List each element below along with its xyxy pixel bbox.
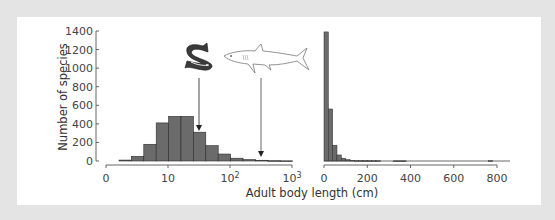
x-tick-label: 400 (400, 172, 421, 185)
y-axis-title: Number of species (56, 43, 70, 151)
y-tick-label: 0 (86, 155, 93, 168)
histogram-bar (193, 132, 205, 161)
x-tick-label: 0 (103, 172, 110, 185)
histogram-bar (243, 160, 255, 161)
x-tick-label: 600 (443, 172, 464, 185)
x-tick-label: 200 (357, 172, 378, 185)
histogram-bar (280, 161, 292, 162)
shark-arrow (258, 78, 264, 157)
histogram-bar (156, 123, 168, 161)
y-tick-label: 1400 (65, 25, 93, 38)
right-x-axis: 0200400600800 (321, 165, 508, 185)
left-y-axis: 1400120010008006004002000 (65, 25, 99, 168)
fish-icon (185, 43, 212, 70)
histogram-bar (119, 160, 131, 161)
left-x-axis: 010102103 (103, 165, 302, 185)
histogram-bar (255, 160, 267, 161)
histogram-bar (181, 116, 193, 161)
histogram-bar (268, 161, 280, 162)
histogram-bar (333, 145, 337, 161)
fish-arrow (196, 78, 202, 131)
y-tick-label: 600 (72, 99, 93, 112)
histogram-bar (206, 146, 218, 161)
x-tick-label: 10 (161, 172, 175, 185)
histogram-bar (324, 32, 328, 161)
left-histogram (119, 116, 293, 161)
histogram-bar (231, 158, 243, 161)
shark-icon (224, 44, 309, 73)
x-tick-label: 800 (487, 172, 508, 185)
y-tick-label: 200 (72, 136, 93, 149)
y-tick-label: 800 (72, 81, 93, 94)
histogram-bar (144, 144, 156, 161)
x-tick-label: 102 (220, 171, 239, 185)
right-histogram (324, 32, 510, 162)
histogram-bar (328, 109, 332, 161)
x-axis-title: Adult body length (cm) (246, 186, 379, 200)
histogram-bar (169, 116, 181, 161)
histogram-bar (341, 158, 345, 161)
histogram-bar (337, 155, 341, 161)
chart-svg: 1400120010008006004002000 010102103 0200… (0, 0, 555, 220)
y-tick-label: 400 (72, 118, 93, 131)
histogram-bar (131, 156, 143, 161)
x-tick-label: 0 (321, 172, 328, 185)
histogram-bar (218, 154, 230, 161)
x-tick-label: 103 (282, 171, 301, 185)
